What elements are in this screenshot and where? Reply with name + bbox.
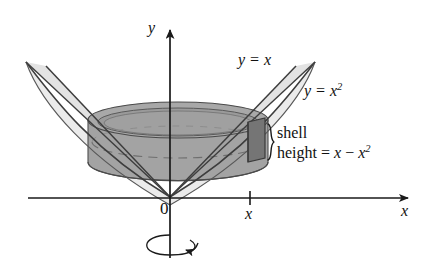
rotation-arrow-icon [147, 235, 198, 255]
origin-label: 0 [160, 200, 169, 218]
y-axis-label: y [148, 20, 155, 37]
shell-annotation-line1: shell [277, 124, 307, 141]
curve-label-line: y = x [238, 52, 271, 69]
shell-annotation-line2: height = x − x2 [277, 143, 371, 162]
x-tick-label: x [245, 206, 252, 223]
curve-label-parabola: y = x2 [304, 81, 342, 100]
shell-height-annotation: shell height = x − x2 [277, 125, 371, 162]
shell-cross-section [248, 118, 265, 162]
x-axis-label: x [401, 203, 408, 220]
shell-method-figure: y = x y = x2 shell height = x − x2 0 x x… [0, 0, 431, 263]
